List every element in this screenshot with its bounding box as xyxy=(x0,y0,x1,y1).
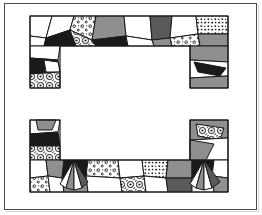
mosaic-patch xyxy=(120,176,146,192)
mosaic-patch xyxy=(30,72,60,88)
mosaic-patch xyxy=(190,46,228,62)
texture-mosaic-plate xyxy=(0,0,262,215)
mosaic-patch xyxy=(36,120,56,130)
mosaic-patch xyxy=(152,38,172,46)
lower-bracket-group xyxy=(30,120,228,192)
mosaic-patch xyxy=(166,160,192,178)
mosaic-patch xyxy=(46,160,64,178)
mosaic-patch xyxy=(30,176,50,192)
mosaic-patch xyxy=(30,160,48,178)
mosaic-patch xyxy=(142,160,168,178)
mosaic-patch xyxy=(198,34,228,46)
mosaic-patch xyxy=(30,36,46,46)
mosaic-patch xyxy=(86,176,122,192)
mosaic-svg xyxy=(0,0,262,215)
figure-root xyxy=(0,0,262,215)
mosaic-patch xyxy=(86,160,120,178)
mosaic-patch xyxy=(30,146,60,160)
mosaic-patch xyxy=(150,16,172,40)
mosaic-patch xyxy=(44,60,60,72)
mosaic-patch xyxy=(144,176,168,192)
upper-bracket-group xyxy=(30,16,228,88)
mosaic-patch xyxy=(196,16,228,34)
mosaic-patch xyxy=(166,178,192,192)
mosaic-patch xyxy=(30,132,60,146)
mosaic-patch xyxy=(190,76,228,88)
mosaic-patch xyxy=(118,160,144,178)
